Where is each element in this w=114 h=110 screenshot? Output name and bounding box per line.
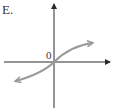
graph (0, 0, 114, 110)
origin-label: 0 (46, 50, 52, 61)
